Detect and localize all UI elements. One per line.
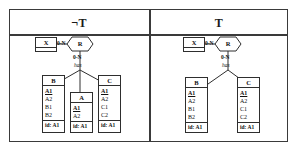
entity-b-right-attributes: A1 A2 B1 B2 [186,88,207,122]
role-label-right: has [222,62,230,68]
entity-box-c-left: C A1 A2 C1 C2 id: A1 [98,75,121,133]
cardinality-left-r-has: 0-N [73,54,81,60]
entity-b-left-attributes: A1 A2 B1 B2 [43,86,64,120]
panel-header-left: ¬T [9,13,149,33]
entity-a-left-identifier: id: A1 [71,121,92,130]
entity-a-left-attributes: A1 A2 [71,103,92,121]
entity-x-right: X [183,37,205,52]
role-label-left: has [74,62,82,68]
attribute-row: B2 [45,111,64,119]
entity-c-right-attributes: A1 A2 C1 C2 [238,88,259,122]
cardinality-right-r-has: 0-N [221,54,229,60]
attribute-row: B1 [188,105,207,113]
entity-box-a-left: A A1 A2 id: A1 [70,92,93,133]
attribute-row: A2 [240,97,259,105]
attribute-row: B2 [188,113,207,121]
entity-box-b-left: B A1 A2 B1 B2 id: A1 [42,75,65,133]
entity-x-left-label: X [36,38,56,48]
attribute-row: A1 [45,87,64,95]
entity-b-right-identifier: id: A1 [186,122,207,131]
entity-c-right-name: C [238,78,259,88]
entity-x-left-empty-compartment [36,48,56,52]
entity-x-right-label: X [184,38,204,48]
attribute-row: A1 [73,104,92,112]
relationship-r-right-label: R [215,37,241,51]
attribute-row: C1 [101,103,120,111]
entity-b-left-name: B [43,76,64,86]
attribute-row: C2 [240,113,259,121]
cardinality-left-x-r: 0-N [57,40,65,46]
er-diagram-figure: ¬T T X R 0-N 0-N has B A1 A2 B1 B2 [0,0,297,149]
entity-x-right-empty-compartment [184,48,204,52]
entity-box-b-right: B A1 A2 B1 B2 id: A1 [185,77,208,133]
attribute-row: A2 [45,95,64,103]
entity-x-left: X [35,37,57,52]
entity-c-right-identifier: id: A1 [238,122,259,131]
panel-header-right: T [150,13,288,33]
attribute-row: A2 [73,112,92,120]
attribute-row: B1 [45,103,64,111]
attribute-row: C2 [101,111,120,119]
attribute-row: A2 [188,97,207,105]
entity-b-left-identifier: id: A1 [43,120,64,129]
cardinality-right-x-r: 0-N [205,40,213,46]
entity-c-left-identifier: id: A1 [99,120,120,129]
relationship-r-left-label: R [67,37,93,51]
attribute-row: A1 [240,89,259,97]
entity-c-left-attributes: A1 A2 C1 C2 [99,86,120,120]
entity-c-left-name: C [99,76,120,86]
attribute-row: A1 [188,89,207,97]
attribute-row: A1 [101,87,120,95]
entity-box-c-right: C A1 A2 C1 C2 id: A1 [237,77,260,133]
attribute-row: C1 [240,105,259,113]
entity-b-right-name: B [186,78,207,88]
entity-a-left-name: A [71,93,92,103]
attribute-row: A2 [101,95,120,103]
